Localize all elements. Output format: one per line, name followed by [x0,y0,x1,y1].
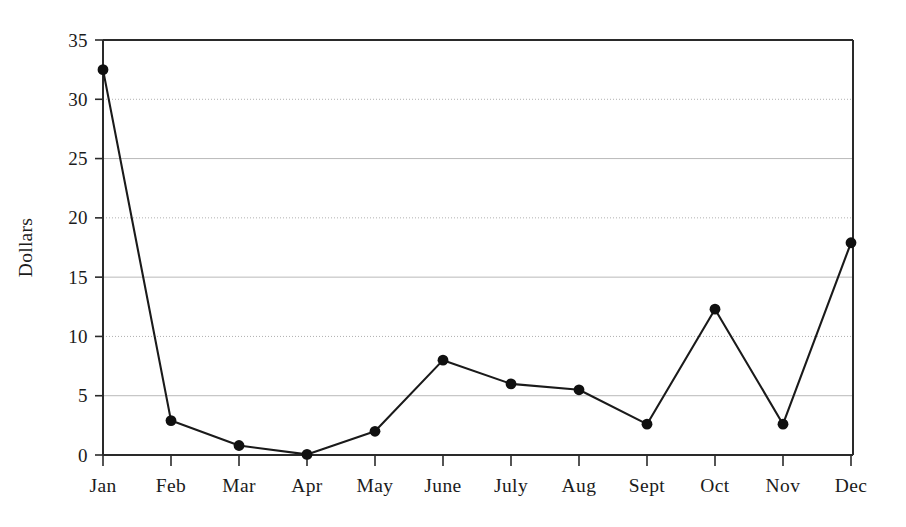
series-line-dollars [103,70,851,455]
x-tick-labels: JanFebMarAprMayJuneJulyAugSeptOctNovDec [89,475,867,496]
data-point [98,64,109,75]
x-tick-label: Oct [700,475,730,496]
series-markers [98,64,857,460]
x-tick-label: June [424,475,461,496]
y-tick-label: 15 [68,267,88,288]
y-tick-marks [95,40,103,455]
y-tick-label: 35 [68,30,88,51]
x-tick-label: July [494,475,528,496]
y-tick-labels: 05101520253035 [68,30,88,466]
y-tick-label: 5 [78,385,88,406]
x-tick-label: Jan [89,475,116,496]
y-tick-label: 25 [68,148,88,169]
data-point [778,419,789,430]
x-tick-label: Dec [835,475,868,496]
y-tick-label: 0 [78,445,88,466]
data-point [846,237,857,248]
line-chart: 05101520253035 JanFebMarAprMayJuneJulyAu… [0,0,906,527]
data-point [166,415,177,426]
data-point [642,419,653,430]
data-point [506,378,517,389]
y-axis-title: Dollars [15,218,36,278]
chart-canvas: 05101520253035 JanFebMarAprMayJuneJulyAu… [0,0,906,527]
data-point [370,426,381,437]
x-tick-label: Mar [222,475,256,496]
x-tick-label: Nov [766,475,801,496]
axis-lines [103,40,853,455]
x-tick-label: May [357,475,394,496]
data-point [574,384,585,395]
data-point [302,449,313,460]
y-tick-label: 10 [68,326,88,347]
x-tick-label: Feb [156,475,186,496]
x-tick-label: Sept [629,475,665,496]
x-tick-label: Apr [291,475,323,496]
x-tick-marks [103,455,851,466]
y-tick-label: 30 [68,89,88,110]
data-point [438,355,449,366]
x-tick-label: Aug [562,475,597,496]
data-point [710,304,721,315]
y-tick-label: 20 [68,207,88,228]
data-point [234,440,245,451]
